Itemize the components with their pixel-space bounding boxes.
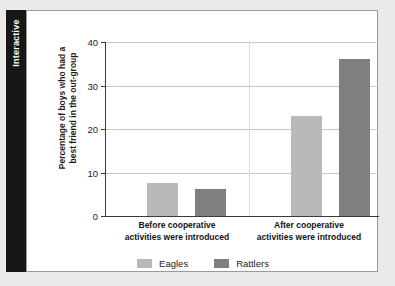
bar-before-eagles[interactable] (147, 183, 178, 216)
plot-area: 010203040 (105, 32, 379, 216)
y-tick-20 (101, 129, 105, 130)
y-axis-title: Percentage of boys who had a best friend… (57, 18, 79, 198)
screenshot-root: Interactive Percentage of boys who had a… (0, 0, 395, 286)
legend-swatch-eagles (137, 259, 152, 268)
y-tick-10 (101, 173, 105, 174)
bar-after-rattlers[interactable] (339, 59, 370, 216)
y-tick-0 (101, 216, 105, 217)
category-label-before-line-1: Before cooperative (101, 220, 253, 232)
x-axis-line (105, 216, 379, 217)
legend-item-eagles[interactable]: Eagles (137, 258, 188, 269)
chart-card: Percentage of boys who had a best friend… (26, 10, 378, 272)
y-axis-title-line-1: Percentage of boys who had a (57, 18, 68, 198)
y-tick-label-10: 10 (87, 167, 98, 178)
y-tick-label-40: 40 (87, 37, 98, 48)
legend-label-rattlers: Rattlers (236, 258, 269, 269)
interactive-tab-label: Interactive (11, 10, 21, 113)
category-label-before: Before cooperative activities were intro… (101, 220, 253, 243)
category-label-after-line-2: activities were introduced (233, 232, 385, 244)
y-tick-label-0: 0 (93, 211, 98, 222)
gridline-40 (106, 42, 379, 43)
y-tick-label-20: 20 (87, 124, 98, 135)
y-axis-title-line-2: best friend in the out-group (68, 18, 79, 198)
chart-legend: Eagles Rattlers (27, 258, 379, 269)
y-tick-30 (101, 86, 105, 87)
legend-item-rattlers[interactable]: Rattlers (214, 258, 269, 269)
category-label-after: After cooperative activities were introd… (233, 220, 385, 243)
bar-before-rattlers[interactable] (195, 189, 226, 216)
bar-after-eagles[interactable] (291, 116, 322, 216)
x-axis-category-labels: Before cooperative activities were intro… (105, 220, 379, 248)
legend-label-eagles: Eagles (159, 258, 188, 269)
group-divider (249, 42, 250, 216)
category-label-before-line-2: activities were introduced (101, 232, 253, 244)
legend-swatch-rattlers (214, 259, 229, 268)
y-tick-label-30: 30 (87, 80, 98, 91)
interactive-side-tab[interactable]: Interactive (6, 10, 27, 272)
y-tick-40 (101, 42, 105, 43)
category-label-after-line-1: After cooperative (233, 220, 385, 232)
